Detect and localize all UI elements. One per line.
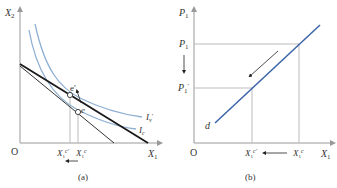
- panel-b: O P1 P1 P1′ d X1c′ X1c X1 (b): [177, 7, 333, 182]
- label-e-prime: e′: [70, 83, 76, 93]
- label-e: e: [81, 105, 85, 115]
- point-e: [75, 109, 80, 114]
- tick-p1-prime: P1′: [177, 82, 190, 95]
- panel-a: O X2 X1 e′ e Iv′ Ic X1c′ X1c (a): [4, 7, 160, 182]
- figure: O X2 X1 e′ e Iv′ Ic X1c′ X1c (a): [0, 0, 337, 188]
- caption-a: (a): [78, 172, 88, 182]
- tick-p1: P1: [178, 38, 189, 51]
- label-ic: Ic: [138, 125, 145, 136]
- budget-line-original: [20, 64, 148, 143]
- caption-b: (b): [245, 172, 256, 182]
- label-d: d: [205, 120, 211, 131]
- y-axis-label-b: P1: [178, 7, 189, 20]
- origin-a: O: [11, 146, 18, 157]
- indifference-curve-iv: [35, 24, 142, 117]
- point-e-prime: [67, 92, 72, 97]
- tick-x1c-a: X1c: [75, 148, 87, 159]
- arrow-along-curve: [250, 51, 278, 76]
- y-axis-label-a: X2: [4, 7, 15, 20]
- x-axis-label-a: X1: [147, 148, 158, 161]
- tick-x1c-b: X1c: [292, 148, 304, 159]
- origin-b: O: [190, 147, 197, 158]
- tick-x1c-prime-b: X1c′: [244, 148, 258, 159]
- label-iv-prime: Iv′: [145, 112, 154, 123]
- budget-line-new: [20, 66, 114, 143]
- tick-x1c-prime-a: X1c′: [56, 148, 70, 159]
- x-axis-label-b: X1: [320, 148, 331, 161]
- compensated-demand-curve: [215, 25, 320, 123]
